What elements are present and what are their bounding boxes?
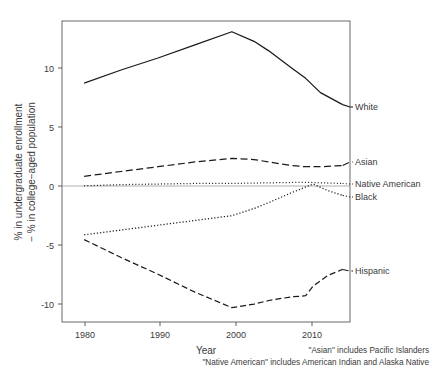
y-tick-5: 5: [49, 123, 62, 133]
footnotes: "Asian" includes Pacific Islanders "Nati…: [202, 346, 429, 367]
x-tick-label-1980: 1980: [75, 330, 95, 340]
y-tick-label-10: 10: [44, 64, 54, 74]
series-leader-white: [343, 105, 353, 107]
x-axis-title: Year: [196, 345, 217, 356]
x-tick-2010: 2010: [302, 322, 322, 340]
x-tick-2000: 2000: [226, 322, 246, 340]
y-axis-title-line1: % in undergraduate enrollment: [13, 103, 24, 240]
y-tick-label-5: 5: [49, 123, 54, 133]
series-label-native-american: Native American: [355, 179, 421, 189]
x-tick-label-2010: 2010: [302, 330, 322, 340]
series-leader-native-american: [343, 183, 353, 184]
series-label-asian: Asian: [355, 157, 378, 167]
y-axis-title: % in undergraduate enrollment − % in col…: [13, 102, 37, 242]
series-line-native-american: [84, 182, 342, 186]
series-line-asian: [84, 158, 342, 176]
y-tick-label-neg10: -10: [41, 300, 54, 310]
series-line-black: [84, 184, 342, 235]
y-tick-0: 0: [49, 182, 62, 192]
y-axis: 10 5 0 -5 -10: [41, 64, 62, 310]
plot-panel-border: [62, 21, 350, 322]
y-tick-label-0: 0: [49, 182, 54, 192]
series-label-white: White: [355, 102, 378, 112]
y-tick-neg10: -10: [41, 300, 62, 310]
chart-svg: 10 5 0 -5 -10 % in undergraduate enrollm…: [0, 0, 433, 373]
series-leader-asian: [343, 162, 353, 166]
chart-figure: 10 5 0 -5 -10 % in undergraduate enrollm…: [0, 0, 433, 373]
series-line-white: [84, 32, 342, 105]
x-tick-1990: 1990: [150, 322, 170, 340]
series-leader-black: [343, 195, 353, 197]
x-tick-label-2000: 2000: [226, 330, 246, 340]
x-axis: 1980 1990 2000 2010 Year: [75, 322, 322, 356]
x-tick-label-1990: 1990: [150, 330, 170, 340]
x-tick-1980: 1980: [75, 322, 95, 340]
y-axis-title-line2: − % in college−aged population: [26, 102, 37, 242]
series-leader-hispanic: [343, 269, 353, 271]
series-labels: White Asian Native American Black Hispan…: [355, 102, 421, 276]
y-tick-neg5: -5: [46, 241, 62, 251]
series-label-black: Black: [355, 192, 378, 202]
series-label-hispanic: Hispanic: [355, 266, 390, 276]
y-tick-10: 10: [44, 64, 62, 74]
footnote-line-1: "Asian" includes Pacific Islanders: [309, 346, 430, 355]
series-lines: [84, 32, 353, 308]
plot-panel: [62, 21, 350, 322]
footnote-line-2: "Native American" includes American Indi…: [202, 358, 429, 367]
y-tick-label-neg5: -5: [46, 241, 54, 251]
series-line-hispanic: [84, 240, 342, 308]
